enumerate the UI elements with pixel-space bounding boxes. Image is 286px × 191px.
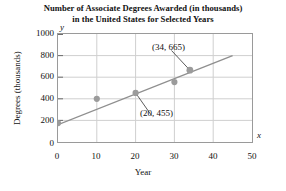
- x-tick-label: 0: [45, 152, 69, 161]
- x-tick-label: 50: [240, 152, 264, 161]
- x-tick-label: 30: [162, 152, 186, 161]
- x-tick-label: 10: [84, 152, 108, 161]
- x-tick-label: 20: [123, 152, 147, 161]
- x-axis-tick-labels: 0 10 20 30 40 50: [0, 0, 286, 191]
- chart-figure: Number of Associate Degrees Awarded (in …: [0, 0, 286, 191]
- x-tick-label: 40: [201, 152, 225, 161]
- x-axis-title: Year: [0, 167, 286, 177]
- point-annotation-upper: (34, 665): [152, 42, 185, 52]
- point-annotation-lower: (20, 455): [140, 108, 173, 118]
- y-axis-title: Degrees (thousands): [12, 28, 22, 148]
